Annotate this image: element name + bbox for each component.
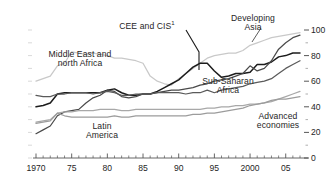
series-label-latin-america: LatinAmerica: [86, 122, 118, 141]
series-label-sub-saharan-africa: Sub-SaharanAfrica: [202, 77, 254, 96]
chart-container: Middle East andnorth AfricaCEE and CIS1D…: [0, 0, 335, 186]
x-tick-label-2000: 2000: [240, 163, 259, 173]
footnote-marker: 1: [171, 20, 174, 26]
x-tick-label-85: 85: [138, 163, 148, 173]
series-label-cee-and-cis: CEE and CIS1: [119, 22, 175, 31]
series-label-line-2: America: [86, 131, 118, 140]
series-label-line-2: Asia: [231, 23, 275, 32]
x-tick-label-80: 80: [103, 163, 113, 173]
cee-cis-leader-line: [186, 30, 199, 70]
y-tick-label-60: 60: [311, 76, 321, 86]
y-tick-label-0: 0: [311, 153, 316, 163]
series-label-developing-asia: DevelopingAsia: [231, 14, 275, 33]
x-tick-label-95: 95: [210, 163, 220, 173]
series-label-line-2: north Africa: [49, 59, 112, 68]
x-tick-label-05: 05: [281, 163, 291, 173]
y-tick-label-20: 20: [311, 127, 321, 137]
y-tick-label-80: 80: [311, 51, 321, 61]
series-label-line-2: Africa: [202, 86, 254, 95]
y-tick-label-40: 40: [311, 102, 321, 112]
series-label-middle-east-and-north-africa: Middle East andnorth Africa: [49, 50, 112, 69]
x-tick-label-1970: 1970: [26, 163, 45, 173]
y-tick-label-100: 100: [311, 25, 325, 35]
x-tick-label-90: 90: [174, 163, 184, 173]
series-label-advanced-economies: Advancedeconomies: [257, 112, 299, 131]
series-label-line-1: CEE and CIS1: [119, 22, 175, 31]
series-label-line-2: economies: [257, 121, 299, 130]
x-tick-label-75: 75: [67, 163, 77, 173]
